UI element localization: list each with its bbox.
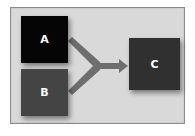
arrow-head-icon — [119, 59, 128, 73]
node-c: C — [129, 38, 180, 90]
node-c-label: C — [150, 58, 158, 71]
node-a-label: A — [40, 33, 49, 46]
node-b-label: B — [40, 86, 48, 99]
node-a: A — [21, 16, 68, 63]
merge-connector — [68, 37, 100, 95]
node-b: B — [21, 69, 68, 116]
arrow-shaft — [96, 63, 120, 69]
